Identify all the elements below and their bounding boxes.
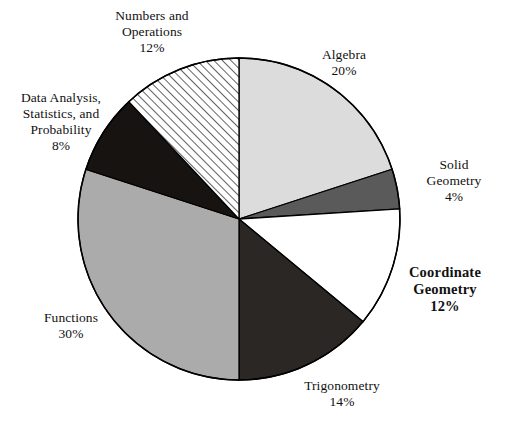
pie-label-line: Operations [72,24,232,40]
pie-label-line: Geometry [386,281,504,298]
pie-label-value: 14% [280,394,404,410]
pie-chart: Numbers and Operations 12% Algebra 20% S… [0,0,505,425]
pie-label-line: Solid [404,157,504,173]
pie-label-line: Trigonometry [280,378,404,394]
pie-chart-graphic [0,0,505,425]
pie-label-functions: Functions 30% [16,310,126,342]
pie-label-value: 20% [288,63,400,79]
pie-label-value: 8% [2,138,120,154]
pie-label-data-analysis: Data Analysis, Statistics, and Probabili… [2,90,120,154]
pie-label-algebra: Algebra 20% [288,47,400,79]
pie-label-line: Statistics, and [2,106,120,122]
pie-label-value: 12% [386,298,504,315]
pie-label-coordinate-geometry: Coordinate Geometry 12% [386,264,504,315]
pie-label-numbers-operations: Numbers and Operations 12% [72,8,232,56]
pie-label-value: 30% [16,326,126,342]
pie-label-value: 4% [404,189,504,205]
pie-label-trigonometry: Trigonometry 14% [280,378,404,410]
pie-label-line: Algebra [288,47,400,63]
pie-label-line: Geometry [404,173,504,189]
pie-label-line: Functions [16,310,126,326]
pie-label-solid-geometry: Solid Geometry 4% [404,157,504,205]
pie-label-line: Numbers and [72,8,232,24]
pie-label-value: 12% [72,40,232,56]
pie-label-line: Coordinate [386,264,504,281]
pie-label-line: Probability [2,122,120,138]
pie-label-line: Data Analysis, [2,90,120,106]
